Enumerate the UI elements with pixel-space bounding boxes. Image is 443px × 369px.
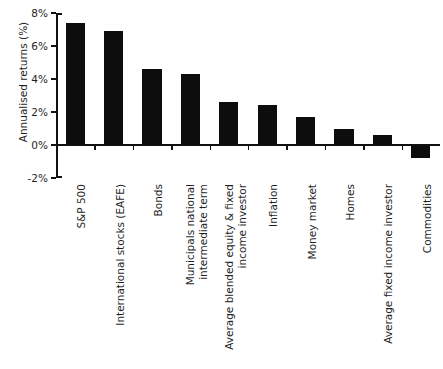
chart-title-clipped — [0, 0, 443, 2]
category-label-line: Money market — [306, 184, 318, 259]
category-label-line: Average fixed income investor — [382, 184, 394, 344]
bar — [373, 135, 392, 145]
y-tick-label: 4% — [31, 73, 48, 85]
category-label: Average fixed income investor — [382, 184, 395, 344]
category-label-line: S&P 500 — [75, 184, 87, 229]
category-label-line: Bonds — [152, 184, 164, 216]
category-label: International stocks (EAFE) — [114, 184, 127, 326]
category-label-line: Homes — [344, 184, 356, 220]
y-tick-label: 8% — [31, 7, 48, 19]
bar — [181, 74, 200, 145]
y-tick-label: -2% — [28, 172, 48, 184]
y-tick-label: 0% — [31, 139, 48, 151]
category-label-line: intermediate term — [197, 184, 210, 285]
bar — [411, 145, 430, 158]
category-axis-labels: S&P 500International stocks (EAFE)BondsM… — [56, 184, 440, 369]
category-label: Money market — [306, 184, 319, 259]
category-label-line: International stocks (EAFE) — [114, 184, 126, 326]
category-label: Municipals nationalintermediate term — [184, 184, 209, 285]
category-label: Commodities — [421, 184, 434, 253]
plot-area: 8%6%4%2%0%-2% — [56, 13, 440, 178]
bar — [104, 31, 123, 145]
category-label-line: Commodities — [421, 184, 433, 253]
bar — [66, 23, 85, 145]
category-label-line: Inflation — [267, 184, 279, 227]
y-tick-label: 6% — [31, 40, 48, 52]
category-label: Bonds — [152, 184, 165, 216]
category-label: Homes — [344, 184, 357, 220]
bar — [142, 69, 161, 145]
category-label-line: income investor — [235, 184, 248, 350]
bar — [296, 117, 315, 145]
bar-series — [56, 13, 440, 178]
category-label: S&P 500 — [75, 184, 88, 229]
bar — [334, 129, 353, 146]
chart-page: Annualised returns (%) 8%6%4%2%0%-2% S&P… — [0, 0, 443, 369]
y-tick-label: 2% — [31, 106, 48, 118]
category-label: Inflation — [267, 184, 280, 227]
bar — [258, 105, 277, 145]
category-label-line: Average blended equity & fixed — [223, 184, 235, 350]
y-axis-title: Annualised returns (%) — [17, 2, 29, 162]
category-label-line: Municipals national — [184, 184, 196, 285]
category-label: Average blended equity & fixedincome inv… — [223, 184, 248, 350]
bar — [219, 102, 238, 145]
